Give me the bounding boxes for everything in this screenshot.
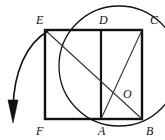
rotation-arrow-head (8, 100, 18, 123)
vertex-label-A: A (97, 124, 106, 138)
vertex-label-O: O (123, 87, 132, 101)
vertex-label-F: F (35, 124, 44, 138)
vertex-label-C: C (150, 13, 159, 27)
vertex-label-B: B (146, 124, 154, 138)
vertex-label-D: D (98, 13, 108, 27)
vertex-label-E: E (35, 13, 44, 27)
geometry-canvas: E D C O F A B (0, 0, 165, 140)
segment-AC (101, 30, 142, 119)
rotation-arrow-curve (13, 31, 48, 108)
geometry-figure: E D C O F A B (0, 0, 165, 140)
